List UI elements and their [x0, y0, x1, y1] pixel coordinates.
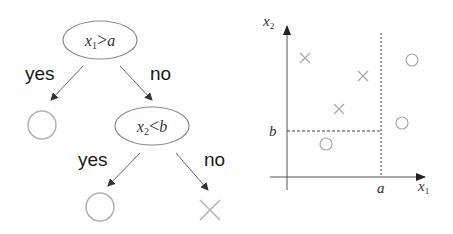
svg-text:x2<b: x2<b: [136, 116, 167, 137]
leaf-cross-icon: [200, 200, 220, 220]
root-yes-arrow: [51, 66, 83, 100]
inner-yes-label: yes: [78, 149, 108, 170]
feature-space-plot: x2 x1 a b: [262, 13, 429, 196]
root-threshold: a: [107, 32, 115, 49]
root-yes-label: yes: [25, 63, 55, 84]
decision-tree-diagram: x1>a yes no x2<b yes no: [0, 0, 453, 234]
y-axis-label: x2: [262, 13, 274, 31]
root-op: >: [97, 30, 107, 50]
inner-node: x2<b: [115, 107, 189, 145]
leaf-circle-icon: [86, 193, 114, 221]
inner-threshold: b: [159, 118, 167, 135]
data-point-circle-icon: [396, 117, 408, 129]
inner-var: x: [136, 118, 144, 135]
x-tick-a: a: [377, 180, 385, 196]
x-axis-label: x1: [417, 178, 429, 196]
inner-op: <: [149, 116, 159, 136]
data-point-circle-icon: [406, 54, 418, 66]
svg-text:x1>a: x1>a: [84, 30, 115, 51]
inner-yes-arrow: [108, 153, 140, 186]
root-no-arrow: [120, 66, 152, 100]
root-no-label: no: [150, 63, 171, 84]
root-var: x: [84, 32, 92, 49]
tree: x1>a yes no x2<b yes no: [25, 21, 225, 221]
data-point-circle-icon: [320, 138, 332, 150]
data-point-cross-icon: [300, 53, 310, 63]
root-node: x1>a: [63, 21, 137, 59]
data-point-cross-icon: [358, 71, 368, 81]
leaf-circle-icon: [28, 111, 56, 139]
inner-no-label: no: [204, 149, 225, 170]
data-point-cross-icon: [334, 104, 344, 114]
y-tick-b: b: [269, 123, 277, 139]
